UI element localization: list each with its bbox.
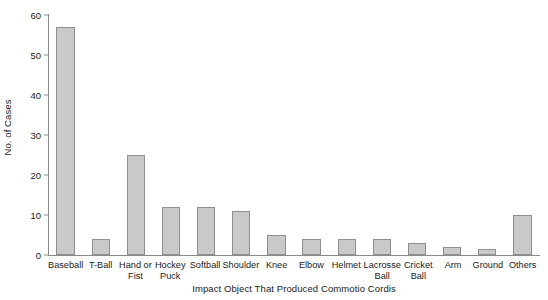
bar-slot — [294, 15, 329, 255]
bar-slot — [470, 15, 505, 255]
bar — [56, 27, 74, 255]
bar-series — [48, 15, 540, 255]
y-axis-title: No. of Cases — [0, 0, 14, 255]
bar-slot — [364, 15, 399, 255]
y-axis-tick: 10 — [30, 210, 48, 221]
bar-slot — [505, 15, 540, 255]
y-axis-tick: 20 — [30, 169, 48, 180]
y-axis-tick-label: 0 — [36, 250, 44, 261]
y-axis-tick-label: 50 — [30, 49, 44, 60]
commotio-cordis-bar-chart: No. of Cases 0102030405060 BaseballT-Bal… — [0, 0, 548, 300]
bar — [302, 239, 320, 255]
bar-slot — [399, 15, 434, 255]
y-axis-tick-label: 40 — [30, 89, 44, 100]
y-axis-tick: 60 — [30, 10, 48, 21]
y-axis-tick: 50 — [30, 49, 48, 60]
bar — [162, 207, 180, 255]
y-axis-tick: 0 — [36, 250, 48, 261]
bar — [92, 239, 110, 255]
y-axis-tick-label: 30 — [30, 130, 44, 141]
bar — [232, 211, 250, 255]
bar-slot — [189, 15, 224, 255]
y-axis-tick-label: 20 — [30, 169, 44, 180]
bar-slot — [83, 15, 118, 255]
bar — [478, 249, 496, 255]
y-axis-tick-label: 60 — [30, 10, 44, 21]
y-axis-tick: 40 — [30, 89, 48, 100]
bar — [513, 215, 531, 255]
bar — [443, 247, 461, 255]
bar — [197, 207, 215, 255]
bar — [127, 155, 145, 255]
bar-slot — [48, 15, 83, 255]
bar-slot — [435, 15, 470, 255]
y-axis-tick-label: 10 — [30, 210, 44, 221]
bar — [408, 243, 426, 255]
plot-area: 0102030405060 — [48, 15, 540, 255]
bar — [267, 235, 285, 255]
bar-slot — [224, 15, 259, 255]
bar — [373, 239, 391, 255]
bar — [338, 239, 356, 255]
bar-slot — [329, 15, 364, 255]
x-axis-line — [48, 255, 540, 256]
bar-slot — [153, 15, 188, 255]
y-axis-tick: 30 — [30, 130, 48, 141]
bar-slot — [259, 15, 294, 255]
x-axis-title: Impact Object That Produced Commotio Cor… — [48, 283, 540, 294]
bar-slot — [118, 15, 153, 255]
